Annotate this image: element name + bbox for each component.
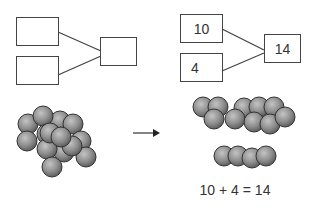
arrow-right-icon	[133, 129, 160, 137]
number-bond-diagram: 10 4 14 10 + 4 = 14	[0, 0, 314, 208]
left-part-top-box	[16, 17, 59, 46]
right-part-bottom-box: 4	[180, 53, 223, 82]
group-of-ten-counters	[193, 97, 295, 134]
left-bond-lines	[58, 32, 101, 75]
right-whole-box: 14	[264, 34, 301, 63]
equation-text: 10 + 4 = 14	[190, 182, 280, 198]
right-bond-lines	[222, 29, 264, 71]
left-part-bottom-box	[16, 56, 59, 85]
part-top-value: 10	[194, 21, 210, 37]
left-whole-box	[100, 37, 137, 66]
right-part-top-box: 10	[180, 14, 223, 43]
group-of-four-counters	[214, 146, 276, 168]
unsorted-counters	[17, 106, 96, 177]
part-bottom-value: 4	[191, 60, 199, 76]
whole-value: 14	[275, 41, 291, 57]
